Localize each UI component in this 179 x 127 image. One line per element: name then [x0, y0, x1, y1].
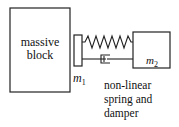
connector-note: non-linear spring and damper	[104, 78, 152, 120]
mass1-symbol: m	[73, 71, 82, 85]
damper-icon	[82, 55, 133, 63]
connector-note-line3: damper	[104, 106, 152, 120]
mass2-label: m2	[146, 54, 158, 71]
spring-icon	[82, 36, 133, 48]
massive-block-label: massive block	[10, 36, 70, 62]
mass1-subscript: 1	[82, 78, 86, 87]
mass2-symbol: m	[146, 54, 154, 66]
connector-note-line1: non-linear	[104, 78, 152, 92]
mass1-label: m1	[73, 72, 86, 89]
mass1-plate-shape	[74, 35, 82, 66]
mass2-subscript: 2	[154, 60, 158, 69]
connector-note-line2: spring and	[104, 92, 152, 106]
massive-block-label-line2: block	[10, 49, 70, 62]
